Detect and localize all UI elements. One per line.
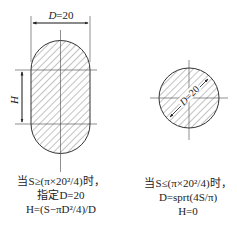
right-caption-line-3: H=0: [136, 204, 237, 218]
right-caption-line-2: D=sprt(4S/π): [136, 190, 237, 204]
left-caption-line-3: H=(S−πD²/4)/D: [10, 202, 112, 216]
left-caption-line-2: 指定D=20: [10, 188, 112, 202]
left-dimension-label: D=20: [47, 9, 74, 21]
left-caption-line-1: 当S≥(π×20²/4)时，: [10, 174, 112, 188]
right-caption: 当S≤(π×20²/4)时， D=sprt(4S/π) H=0: [136, 176, 237, 218]
right-caption-line-1: 当S≤(π×20²/4)时，: [136, 176, 237, 190]
height-label: H: [8, 95, 20, 105]
left-obround-section: [15, 16, 97, 172]
left-caption: 当S≥(π×20²/4)时， 指定D=20 H=(S−πD²/4)/D: [10, 174, 112, 216]
